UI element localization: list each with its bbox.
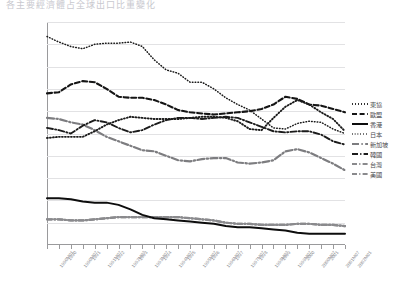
legend-label: 香港 — [370, 121, 382, 128]
x-axis-tick — [190, 245, 191, 249]
legend-swatch-icon — [352, 131, 368, 137]
series-line — [47, 81, 345, 114]
x-axis-tick — [142, 245, 143, 249]
legend-swatch-icon — [352, 111, 368, 117]
legend-label: 東協 — [370, 101, 382, 108]
x-axis-tick — [250, 245, 251, 249]
series-line — [47, 117, 345, 145]
x-axis-tick — [238, 245, 239, 249]
x-axis-tick — [178, 245, 179, 249]
x-axis-tick — [202, 245, 203, 249]
legend-swatch-icon — [352, 121, 368, 127]
x-axis-tick — [214, 245, 215, 249]
legend-label: 台灣 — [370, 161, 382, 168]
x-axis-tick — [333, 245, 334, 249]
chart-legend: 東協歐盟香港日本新加坡韓國台灣美國 — [352, 99, 406, 179]
x-axis-tick — [297, 245, 298, 249]
x-axis-tick — [154, 245, 155, 249]
x-axis-tick — [95, 245, 96, 249]
legend-label: 新加坡 — [370, 141, 389, 148]
legend-item-日本[interactable]: 日本 — [352, 129, 406, 139]
x-axis-tick — [47, 245, 48, 249]
legend-swatch-icon — [352, 151, 368, 157]
series-line — [47, 118, 345, 170]
x-axis-tick — [285, 245, 286, 249]
plot-area: 0.0%2.0%4.0%6.0%8.0%10.0%12.0%14.0%16.0%… — [47, 22, 345, 245]
series-lines — [47, 22, 345, 245]
x-axis-tick — [71, 245, 72, 249]
legend-item-東協[interactable]: 東協 — [352, 99, 406, 109]
x-axis-tick — [321, 245, 322, 249]
series-line — [47, 100, 345, 138]
x-axis-tick — [130, 245, 131, 249]
legend-label: 歐盟 — [370, 111, 382, 118]
x-axis-tick — [273, 245, 274, 249]
legend-item-美國[interactable]: 美國 — [352, 169, 406, 179]
legend-item-韓國[interactable]: 韓國 — [352, 149, 406, 159]
x-axis-tick — [83, 245, 84, 249]
legend-item-新加坡[interactable]: 新加坡 — [352, 139, 406, 149]
legend-swatch-icon — [352, 161, 368, 167]
x-axis-tick — [262, 245, 263, 249]
legend-swatch-icon — [352, 171, 368, 177]
x-axis-tick — [166, 245, 167, 249]
x-axis-tick — [59, 245, 60, 249]
legend-swatch-icon — [352, 101, 368, 107]
legend-item-香港[interactable]: 香港 — [352, 119, 406, 129]
legend-item-歐盟[interactable]: 歐盟 — [352, 109, 406, 119]
legend-label: 日本 — [370, 131, 382, 138]
chart-title: 各主要經濟體占全球出口比重變化 — [6, 0, 306, 11]
legend-swatch-icon — [352, 141, 368, 147]
legend-label: 美國 — [370, 171, 382, 178]
series-line — [47, 198, 345, 234]
x-axis-tick — [107, 245, 108, 249]
x-axis-tick — [345, 245, 346, 249]
series-line — [47, 37, 345, 134]
x-axis-tick — [226, 245, 227, 249]
legend-item-台灣[interactable]: 台灣 — [352, 159, 406, 169]
legend-label: 韓國 — [370, 151, 382, 158]
x-axis-tick — [119, 245, 120, 249]
x-axis-tick — [309, 245, 310, 249]
chart-page: 各主要經濟體占全球出口比重變化 0.0%2.0%4.0%6.0%8.0%10.0… — [0, 0, 406, 281]
